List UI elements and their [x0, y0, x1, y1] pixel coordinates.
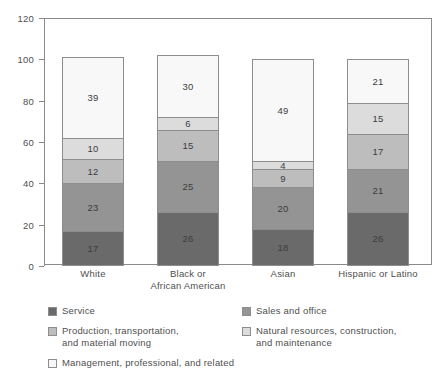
legend-swatch	[48, 307, 57, 316]
bar-stack: 262515630	[157, 55, 219, 266]
y-tick-label: 60	[23, 137, 34, 148]
bar-segment-value: 6	[185, 119, 190, 129]
legend-swatch	[48, 359, 57, 368]
bar-segment: 10	[62, 138, 124, 159]
legend-item: Service	[48, 305, 238, 317]
bar-stack: 18209449	[252, 59, 314, 266]
legend-item-label: Production, transportation, and material…	[62, 325, 179, 349]
bar-segment: 18	[252, 229, 314, 266]
bar-segment-value: 21	[373, 77, 384, 87]
bar-segment: 23	[62, 183, 124, 231]
bar-segment-value: 21	[373, 186, 384, 196]
bar-segment-value: 9	[280, 174, 285, 184]
bar-segment-value: 49	[278, 106, 289, 116]
bar-segment: 15	[347, 103, 409, 134]
legend-item: Natural resources, construction, and mai…	[242, 325, 442, 349]
bar-segment: 21	[347, 59, 409, 102]
y-tick-mark	[39, 266, 44, 267]
bar-segment: 17	[347, 134, 409, 169]
bar-segment: 25	[157, 161, 219, 213]
bar-segment: 20	[252, 187, 314, 228]
bar-segment-value: 26	[183, 234, 194, 244]
bar-segment: 6	[157, 117, 219, 129]
bar-segment-value: 25	[183, 182, 194, 192]
legend-swatch	[48, 327, 57, 336]
bar-segment-value: 17	[88, 244, 99, 254]
bar-segment-value: 4	[280, 161, 285, 171]
bar-segment: 9	[252, 169, 314, 188]
bar-segment: 12	[62, 159, 124, 184]
bar-segment: 15	[157, 130, 219, 161]
legend-column-left: ServiceProduction, transportation, and m…	[48, 305, 238, 377]
legend-item-label: Service	[62, 305, 95, 317]
bar-segment-value: 23	[88, 203, 99, 213]
bar-segment: 30	[157, 55, 219, 117]
x-axis-category-labels: WhiteBlack or African AmericanAsianHispa…	[44, 268, 432, 302]
bar-segment-value: 18	[278, 243, 289, 253]
y-tick-label: 100	[18, 54, 34, 65]
legend-item-label: Sales and office	[256, 305, 327, 317]
y-tick-label: 80	[23, 95, 34, 106]
bar-segment: 49	[252, 59, 314, 160]
bar-segment-value: 20	[278, 204, 289, 214]
stacked-bar-chart: 020406080100120 172312103926251563018209…	[0, 0, 446, 385]
legend-item-label: Natural resources, construction, and mai…	[256, 325, 397, 349]
bar-segment-value: 10	[88, 144, 99, 154]
bar-segment: 17	[62, 231, 124, 266]
bar-segment: 4	[252, 161, 314, 169]
bar-segment: 26	[157, 212, 219, 266]
bar-segment: 39	[62, 57, 124, 138]
bar-segment: 26	[347, 212, 409, 266]
chart-legend: ServiceProduction, transportation, and m…	[0, 305, 446, 385]
legend-item: Management, professional, and related	[48, 357, 238, 369]
bar-stack: 2621171521	[347, 59, 409, 266]
legend-swatch	[242, 327, 251, 336]
bars-layer: 1723121039262515630182094492621171521	[44, 18, 432, 266]
bar-segment-value: 15	[373, 114, 384, 124]
y-tick-label: 20	[23, 219, 34, 230]
y-tick-label: 120	[18, 13, 34, 24]
bar-segment-value: 26	[373, 234, 384, 244]
legend-item: Sales and office	[242, 305, 442, 317]
legend-item: Production, transportation, and material…	[48, 325, 238, 349]
x-category-label: Hispanic or Latino	[318, 268, 438, 280]
legend-item-label: Management, professional, and related	[62, 357, 234, 369]
bar-segment: 21	[347, 169, 409, 212]
bar-segment-value: 30	[183, 82, 194, 92]
bar-segment-value: 17	[373, 147, 384, 157]
legend-column-right: Sales and officeNatural resources, const…	[242, 305, 442, 357]
legend-swatch	[242, 307, 251, 316]
bar-stack: 1723121039	[62, 57, 124, 266]
bar-segment-value: 12	[88, 167, 99, 177]
bar-segment-value: 39	[88, 93, 99, 103]
y-tick-label: 40	[23, 178, 34, 189]
bar-segment-value: 15	[183, 141, 194, 151]
